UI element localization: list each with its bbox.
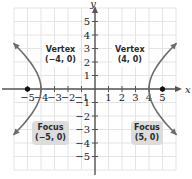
y-tick-label: −1: [75, 97, 90, 108]
vertex-left-label: Vertex (−4, 0): [42, 43, 79, 67]
focus-left-label: Focus (−5, 0): [32, 121, 69, 145]
focus-right-point: [160, 86, 165, 91]
vertex-left-title: Vertex: [45, 45, 76, 55]
x-tick-label: 5: [159, 92, 165, 103]
y-tick-label: 3: [84, 43, 90, 54]
hyperbola-plot: xy−5−4−3−2−112345−5−4−3−2−112345: [0, 0, 192, 179]
x-tick-label: 1: [105, 92, 111, 103]
focus-right-label: Focus (5, 0): [131, 121, 163, 145]
y-tick-label: −2: [75, 111, 90, 122]
focus-left-coords: (−5, 0): [35, 133, 66, 143]
vertex-right-title: Vertex: [115, 45, 145, 55]
focus-left-title: Focus: [35, 123, 66, 133]
y-tick-label: −4: [75, 138, 90, 149]
x-tick-label: 2: [119, 92, 125, 103]
focus-right-title: Focus: [134, 123, 160, 133]
focus-right-coords: (5, 0): [134, 133, 160, 143]
x-axis-label: x: [185, 84, 191, 95]
focus-left-point: [25, 86, 30, 91]
y-tick-label: 2: [84, 57, 90, 68]
vertex-right-coords: (4, 0): [115, 55, 145, 65]
x-axis-arrow-icon: [175, 86, 182, 92]
vertex-right-label: Vertex (4, 0): [112, 43, 148, 67]
y-tick-label: 5: [84, 16, 90, 27]
vertex-left-coords: (−4, 0): [45, 55, 76, 65]
y-tick-label: −3: [75, 124, 90, 135]
y-tick-label: 1: [84, 70, 90, 81]
x-tick-label: 3: [132, 92, 138, 103]
y-tick-label: −5: [75, 151, 90, 162]
y-axis-label: y: [89, 0, 96, 9]
y-tick-label: 4: [84, 30, 90, 41]
